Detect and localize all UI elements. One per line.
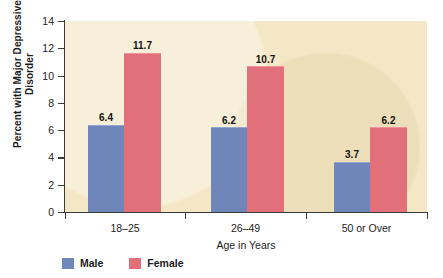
legend-swatch-male-icon	[62, 258, 74, 269]
bar-female-18-25[interactable]	[124, 53, 161, 213]
bar-value-female-50-or-over: 6.2	[370, 116, 407, 126]
bar-value-female-18-25: 11.7	[124, 41, 161, 51]
bar-value-female-26-49: 10.7	[247, 55, 284, 65]
y-axis-title-line2: Disorder	[24, 0, 36, 149]
bar-male-18-25[interactable]	[88, 125, 124, 212]
legend-spacer	[103, 263, 129, 264]
legend-label-male: Male	[80, 258, 103, 269]
y-tick-label-2: 2	[32, 180, 54, 190]
x-label-50-or-over: 50 or Over	[306, 222, 427, 234]
y-tick-14	[58, 21, 65, 22]
y-tick-10	[58, 76, 65, 77]
bar-female-26-49[interactable]	[247, 66, 284, 212]
y-tick-label-0-text: 0	[32, 207, 54, 218]
bar-male-26-49[interactable]	[211, 127, 247, 212]
legend-item-female[interactable]: Female	[129, 258, 183, 269]
x-label-26-49: 26–49	[185, 222, 306, 234]
x-axis-title: Age in Years	[65, 239, 427, 251]
x-tick-1	[185, 213, 186, 219]
bar-value-male-50-or-over: 3.7	[334, 150, 370, 160]
bar-value-male-18-25: 6.4	[88, 113, 124, 123]
y-axis-title-line1: Percent with Major Depressive	[12, 0, 24, 149]
y-tick-0	[58, 212, 65, 213]
y-tick-label-4: 4	[32, 152, 54, 162]
y-tick-4	[58, 157, 65, 158]
x-axis-line	[64, 212, 428, 213]
bar-chart-figure: 14 12 10 8 6 4 2 0 Percent with Major De…	[0, 0, 443, 278]
y-tick-2	[58, 185, 65, 186]
y-tick-label-4-text: 4	[32, 152, 54, 163]
y-tick-12	[58, 48, 65, 49]
legend-swatch-female-icon	[129, 258, 141, 269]
x-tick-end	[427, 213, 428, 219]
y-tick-label-0: 0	[32, 207, 54, 217]
bar-male-50-or-over[interactable]	[334, 162, 370, 213]
x-tick-start	[65, 213, 66, 219]
x-tick-2	[306, 213, 307, 219]
bar-female-50-or-over[interactable]	[370, 127, 407, 212]
y-tick-6	[58, 130, 65, 131]
y-axis-title: Percent with Major Depressive Disorder	[12, 0, 36, 149]
legend: Male Female	[62, 258, 184, 269]
y-tick-label-2-text: 2	[32, 180, 54, 191]
legend-label-female: Female	[147, 258, 183, 269]
legend-item-male[interactable]: Male	[62, 258, 103, 269]
y-tick-8	[58, 103, 65, 104]
x-label-18-25: 18–25	[65, 222, 185, 234]
bar-value-male-26-49: 6.2	[211, 116, 247, 126]
